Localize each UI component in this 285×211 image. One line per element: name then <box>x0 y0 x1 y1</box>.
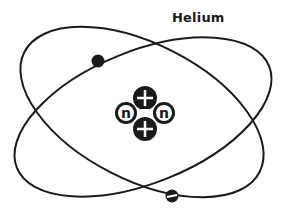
neutron-left: n <box>115 102 137 124</box>
proton-top <box>133 86 157 110</box>
helium-atom-diagram: n n <box>0 0 285 211</box>
electron-upper <box>92 55 105 68</box>
nucleus: n n <box>115 86 175 141</box>
neutron-right: n <box>153 102 175 124</box>
neutron-label: n <box>121 105 131 121</box>
proton-bottom <box>133 117 157 141</box>
electron-lower <box>166 190 179 203</box>
neutron-label: n <box>159 105 169 121</box>
